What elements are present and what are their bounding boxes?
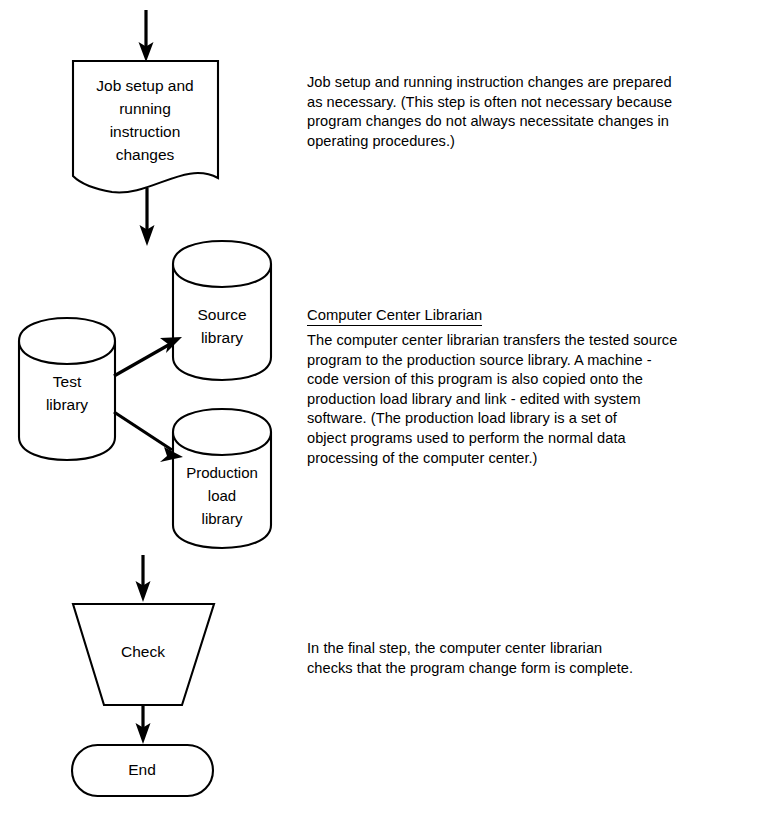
edge-entry-to-job-setup xyxy=(139,10,154,62)
node-source-library-line-1: Source xyxy=(197,306,246,323)
annotation-job-setup: Job setup and running instruction change… xyxy=(307,73,762,151)
edge-job-setup-to-libraries xyxy=(140,188,155,246)
node-job-setup-and-running-instruction-changes[interactable]: Job setup and running instruction change… xyxy=(73,61,218,192)
node-production-load-library-line-1: Production xyxy=(186,464,258,481)
node-production-load-library-line-3: library xyxy=(202,510,243,527)
node-job-setup-line-4: changes xyxy=(116,146,175,163)
node-production-load-library[interactable]: Production load library xyxy=(173,409,271,548)
annotation-librarian-heading: Computer Center Librarian xyxy=(307,306,482,326)
annotation-librarian-body: The computer center librarian transfers … xyxy=(307,331,767,468)
node-check-label: Check xyxy=(121,643,165,660)
node-production-load-library-line-2: load xyxy=(208,487,236,504)
node-job-setup-line-1: Job setup and xyxy=(96,77,193,94)
node-test-library-line-2: library xyxy=(46,396,88,413)
node-source-library-line-2: library xyxy=(201,329,243,346)
node-job-setup-line-2: running xyxy=(119,100,171,117)
node-source-library[interactable]: Source library xyxy=(173,241,271,380)
node-check[interactable]: Check xyxy=(73,604,214,705)
edge-test-library-to-source-library xyxy=(114,337,182,376)
node-end[interactable]: End xyxy=(72,745,213,796)
node-end-label: End xyxy=(128,761,156,778)
node-test-library[interactable]: Test library xyxy=(19,318,115,460)
annotation-check: In the final step, the computer center l… xyxy=(307,639,747,678)
node-job-setup-line-3: instruction xyxy=(110,123,181,140)
edge-check-to-end xyxy=(136,705,151,744)
edge-libraries-to-check xyxy=(136,555,151,602)
node-test-library-line-1: Test xyxy=(53,373,82,390)
